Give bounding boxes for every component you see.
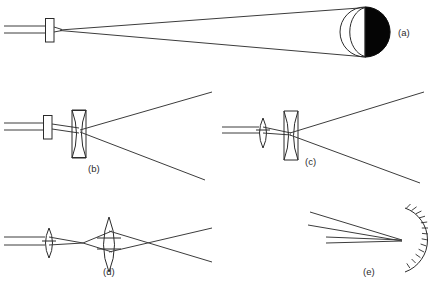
panel-a-terminator-arc — [350, 8, 365, 57]
panel-b: (b) — [4, 92, 212, 180]
ray-inner-lower — [52, 129, 79, 133]
hatch-mark — [407, 263, 410, 268]
panel-e-label: (e) — [363, 266, 375, 277]
ray-mid-upper — [49, 237, 83, 243]
hatch-mark — [419, 249, 424, 252]
panel-c-converging-rays — [263, 127, 291, 135]
diagram-canvas: (a) (b) — [0, 0, 428, 285]
hatch-mark — [406, 204, 411, 209]
panel-d: (d) — [4, 217, 212, 277]
panel-d-incoming-beam — [4, 237, 45, 245]
panel-a: (a) — [4, 7, 410, 57]
panel-a-illuminated-half — [365, 7, 390, 57]
panel-e-mirror-hatching — [406, 204, 428, 268]
ray-cross-down — [109, 231, 212, 262]
hatch-mark — [422, 233, 428, 234]
panel-c-incoming-beam — [222, 127, 259, 133]
panel-e-incoming-beam — [326, 237, 402, 243]
hatch-mark — [422, 239, 428, 240]
ray-cross-up — [109, 228, 212, 252]
panel-a-slab-aperture — [46, 19, 55, 43]
panel-d-small-convex-lens — [42, 228, 56, 258]
panel-b-slab-aperture — [44, 116, 53, 140]
ray-inner-upper — [52, 124, 79, 128]
ray-out-upper — [80, 92, 212, 130]
ray-axial-lower — [326, 241, 402, 243]
hatch-mark — [412, 259, 416, 263]
hatch-mark — [421, 244, 427, 246]
panel-b-diverging-rays — [80, 92, 212, 180]
ray-expand-lower — [83, 243, 112, 252]
large-lens-body — [104, 217, 115, 272]
panel-a-incoming-beam — [4, 26, 45, 33]
panel-e-concave-mirror — [405, 208, 428, 272]
cone-edge-upper — [60, 8, 366, 31]
optical-ray-diagram-figure: (a) (b) — [0, 0, 428, 285]
panel-e-reflected-rays — [308, 212, 402, 241]
cone-edge-lower — [60, 31, 366, 58]
ray-mid-lower — [49, 243, 83, 245]
panel-d-crossing-rays — [109, 228, 212, 262]
ray-conv-lower — [263, 133, 291, 135]
ray-reflected-upper — [310, 212, 402, 240]
ray-expand-upper — [83, 231, 112, 243]
hatch-mark — [419, 216, 425, 218]
ray-inner-upper — [54, 27, 62, 30]
panel-b-label: (b) — [88, 163, 100, 174]
panel-c-diverging-rays — [290, 92, 424, 183]
panel-c-label: (c) — [305, 156, 316, 167]
panel-a-label: (a) — [398, 27, 410, 38]
panel-b-intermediate-rays — [52, 124, 79, 133]
panel-a-diverging-cone — [60, 8, 366, 58]
hatch-mark — [416, 254, 421, 257]
hatch-mark — [412, 207, 417, 211]
hatch-mark — [416, 211, 422, 214]
panel-d-large-convex-lens — [97, 217, 121, 272]
ray-out-upper — [290, 92, 424, 133]
small-lens-body — [46, 228, 53, 258]
panel-d-label: (d) — [103, 266, 115, 277]
panel-c: (c) — [222, 92, 424, 183]
panel-e: (e) — [308, 204, 428, 277]
panel-b-incoming-beam — [4, 123, 43, 130]
